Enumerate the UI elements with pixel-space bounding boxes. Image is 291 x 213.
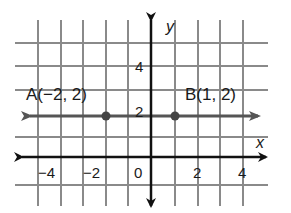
tick-x-minus-4: −4	[38, 164, 55, 181]
x-axis-label: x	[255, 134, 265, 151]
tick-x-2: 2	[193, 164, 201, 181]
point-a	[102, 112, 111, 121]
point-a-label: A(−2, 2)	[26, 85, 87, 104]
tick-x-4: 4	[238, 164, 246, 181]
point-b	[171, 112, 180, 121]
tick-y-4: 4	[135, 58, 143, 75]
tick-x-minus-2: −2	[83, 164, 100, 181]
coordinate-plane: A(−2, 2) B(1, 2) x y −4 −2 0 2 4 4 2	[0, 0, 291, 213]
tick-x-0: 0	[134, 164, 142, 181]
y-axis-label: y	[165, 18, 175, 35]
point-b-label: B(1, 2)	[185, 85, 236, 104]
tick-y-2: 2	[135, 103, 143, 120]
